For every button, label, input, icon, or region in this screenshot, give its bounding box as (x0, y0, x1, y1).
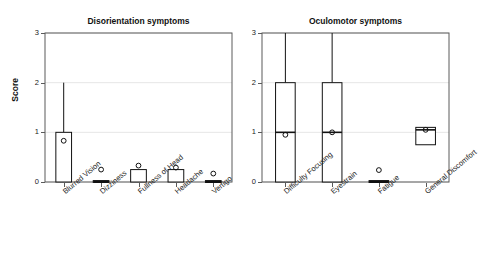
y-tick-mark-1-2 (258, 83, 262, 84)
y-tick-mark-1-1 (258, 132, 262, 133)
panel-title-1: Oculomotor symptoms (202, 16, 482, 26)
y-tick-label-1-1: 1 (240, 127, 256, 136)
y-tick-mark-0-0 (41, 182, 45, 183)
boxplot-blurred-vision (56, 83, 72, 182)
y-tick-mark-0-3 (41, 33, 45, 34)
y-tick-label-1-2: 2 (240, 78, 256, 87)
y-tick-mark-1-3 (258, 33, 262, 34)
panel-plot-area-1 (261, 32, 450, 183)
y-tick-label-0-2: 2 (23, 78, 39, 87)
boxplot-general-discomfort (416, 127, 436, 144)
y-tick-mark-1-0 (258, 182, 262, 183)
boxplot-difficulty-focusing (276, 33, 296, 182)
panel-plot-area-0 (44, 32, 233, 183)
boxplot-fullness-of-head (131, 163, 147, 182)
y-tick-mark-0-2 (41, 83, 45, 84)
y-tick-label-1-0: 0 (240, 177, 256, 186)
y-tick-label-1-3: 3 (240, 28, 256, 37)
y-tick-label-0-0: 0 (23, 177, 39, 186)
y-axis-label: Score (10, 78, 20, 102)
y-tick-mark-0-1 (41, 132, 45, 133)
y-tick-label-0-1: 1 (23, 127, 39, 136)
y-tick-label-0-3: 3 (23, 28, 39, 37)
